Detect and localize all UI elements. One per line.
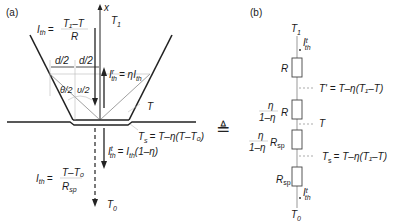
Ts-label: Ts= T–η(T–T₀)	[138, 131, 204, 144]
substrate-line	[7, 122, 196, 125]
flux-top-label: Itth	[303, 37, 311, 51]
T-label: T	[147, 101, 154, 112]
svg-text:Rsp: Rsp	[62, 181, 77, 194]
x-axis-label: x	[103, 2, 110, 13]
flux-top-arrow-icon	[299, 49, 301, 51]
d-half-left-label: d/2	[55, 55, 69, 66]
reflected-flux-label: Irth= ηIth	[109, 68, 142, 82]
resistor-R	[292, 58, 302, 77]
theta-half-label: θ/2	[60, 85, 72, 95]
svg-text:1–η: 1–η	[259, 112, 276, 123]
panel-b-label: (b)	[250, 7, 262, 18]
svg-text:Ith=: Ith=	[37, 24, 54, 36]
flux-bottom-label: Itth	[303, 187, 311, 201]
reflected-flux-arrowhead	[101, 67, 107, 76]
equivalence-symbol: ≜	[216, 119, 230, 139]
svg-text:T–T₀: T–T₀	[62, 167, 84, 178]
resistor-eta-R	[292, 100, 302, 119]
panel-b: (b) T1 Itth R η 1–η R η 1–η Rsp Rsp T' =…	[249, 7, 387, 222]
svg-text:R: R	[71, 31, 78, 42]
ith-top-equation: Ith= T₁–T R	[37, 18, 88, 42]
heat-flux-arrowhead	[92, 98, 98, 106]
svg-text:η: η	[268, 100, 274, 111]
transmitted-flux-arrowhead	[101, 161, 107, 169]
svg-text:R: R	[281, 107, 288, 118]
ith-bottom-equation: Ith= T–T₀ Rsp	[36, 167, 84, 194]
node-T1: T1	[291, 23, 301, 36]
resistor-R-label: R	[281, 63, 288, 74]
resistor-eta-R-label: η 1–η R	[259, 100, 288, 123]
angle-arc	[68, 96, 92, 100]
ray-right	[100, 74, 150, 120]
svg-text:Ith=: Ith=	[36, 173, 53, 185]
svg-text:η: η	[258, 130, 264, 141]
svg-text:Rsp: Rsp	[270, 137, 285, 150]
T0-label: T0	[107, 199, 117, 212]
x-axis-arrowhead	[98, 4, 103, 10]
svg-text:1–η: 1–η	[249, 142, 266, 153]
total-flux-arrowhead	[92, 199, 98, 207]
upsilon-half-label: υ/2	[77, 85, 89, 95]
resistor-Rsp	[292, 167, 302, 186]
node-T-prime-label: T' = T–η(T₁–T)	[319, 83, 383, 94]
resistor-Rsp-label: Rsp	[276, 174, 291, 187]
panel-a-label: (a)	[6, 7, 18, 18]
resistor-eta-Rsp-label: η 1–η Rsp	[249, 130, 285, 153]
d-half-right-label: d/2	[79, 55, 93, 66]
T1-label: T1	[111, 15, 121, 28]
flux-bottom-arrow-icon	[299, 197, 301, 199]
transmitted-flux-label: Itth= Ith(1–η)	[108, 145, 158, 159]
node-T0: T0	[291, 209, 301, 222]
diagram-canvas: (a) d/2 d/2 θ/2 υ/2 x T1	[0, 0, 403, 224]
svg-text:T₁–T: T₁–T	[63, 18, 85, 29]
node-T-label: T	[319, 118, 326, 129]
panel-a: (a) d/2 d/2 θ/2 υ/2 x T1	[6, 2, 204, 212]
resistor-eta-Rsp	[292, 130, 302, 149]
wedge-left-wall	[30, 35, 73, 120]
node-Ts-label: Ts= T–η(T₁–T)	[322, 151, 387, 164]
Ts-leader	[130, 124, 138, 130]
